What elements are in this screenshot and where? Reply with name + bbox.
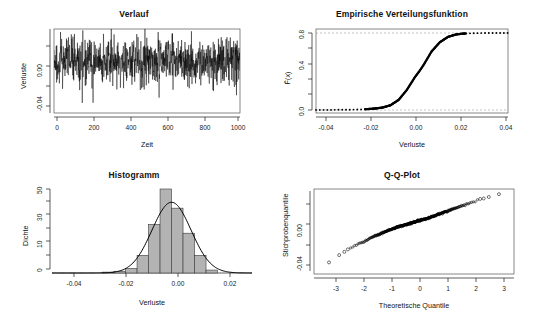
verlauf-series	[54, 29, 240, 103]
ecdf-point	[477, 32, 479, 34]
histogram-bar	[149, 224, 160, 273]
y-tick-label: 0.4	[298, 61, 305, 70]
y-tick-label: 50	[36, 186, 43, 194]
panel-ecdf: Empirische Verteilungsfunktion 0.0 0.4 0…	[268, 0, 536, 161]
x-tick-label: 0	[55, 124, 59, 131]
x-tick-label: -1	[389, 285, 395, 292]
x-tick-label: 2	[474, 285, 478, 292]
x-tick-label: 0.00	[172, 280, 185, 287]
ecdf-point	[326, 109, 328, 111]
qq-point	[346, 248, 349, 251]
x-axis-title: Theoretische Quantile	[379, 301, 449, 310]
ecdf-point	[473, 32, 475, 34]
panel-qq: Q-Q-Plot -0.04 0.00 Stichprobenquantile …	[268, 161, 536, 322]
x-axis-title: Verluste	[399, 140, 425, 149]
plot-box	[316, 29, 508, 113]
x-tick-label: 3	[502, 285, 506, 292]
ecdf-point	[338, 109, 340, 111]
y-tick-label: 0.00	[296, 224, 303, 237]
histogram-bar	[206, 270, 217, 273]
x-tick-label: 0.04	[500, 124, 513, 131]
x-tick-label: -2	[361, 285, 367, 292]
qq-series	[328, 193, 501, 264]
panel-qq-plot: -0.04 0.00 Stichprobenquantile -3 -2 -1 …	[268, 161, 536, 322]
y-tick-label: 30	[36, 213, 43, 221]
qq-point	[343, 250, 346, 253]
y-tick-label: 0.8	[298, 30, 305, 39]
x-tick-label: -0.02	[363, 124, 378, 131]
y-tick-label: 0.0	[298, 107, 305, 116]
ecdf-series	[315, 32, 508, 111]
histogram-bar	[172, 208, 183, 273]
qq-point	[479, 197, 482, 200]
y-tick-label: -0.04	[36, 96, 43, 111]
x-tick-label: 800	[199, 124, 210, 131]
x-tick-label: 1000	[231, 124, 246, 131]
ecdf-point	[465, 33, 467, 35]
ecdf-point	[499, 32, 501, 34]
ecdf-point	[484, 32, 486, 34]
panel-histogram: Histogramm 0 10 30 50 Dichte -0.04 -0.02…	[0, 161, 268, 322]
y-axis-ticks	[46, 46, 50, 106]
ecdf-point	[345, 109, 347, 111]
y-axis-ticks	[306, 204, 310, 265]
x-axis-title: Verluste	[139, 298, 165, 307]
plot-figure: Verlauf -0.04 0.00 Verluste 0 200 400 60…	[0, 0, 537, 322]
x-tick-label: 1	[446, 285, 450, 292]
y-tick-label: -0.04	[296, 256, 303, 271]
qq-point	[482, 197, 485, 200]
ecdf-point	[488, 32, 490, 34]
svg-text:F̂(x): F̂(x)	[283, 72, 292, 85]
x-axis-ticks	[74, 273, 230, 277]
ecdf-point	[330, 109, 332, 111]
x-axis-ticks	[336, 278, 504, 282]
ecdf-point	[353, 109, 355, 111]
x-axis-title: Zeit	[141, 140, 153, 149]
qq-point	[328, 261, 331, 264]
x-tick-label: 0.00	[410, 124, 423, 131]
x-tick-label: 400	[125, 124, 136, 131]
y-axis-title: F̂(x)	[283, 72, 292, 85]
ecdf-point	[319, 109, 321, 111]
x-tick-label: 0.02	[224, 280, 237, 287]
x-tick-label: 200	[88, 124, 99, 131]
ecdf-point	[492, 32, 494, 34]
panel-histogram-plot: 0 10 30 50 Dichte -0.04 -0.02 0.00 0.02 …	[0, 161, 268, 322]
ecdf-point	[469, 32, 471, 34]
qq-point	[349, 247, 351, 249]
x-tick-label: 0.02	[455, 124, 468, 131]
y-tick-label: 10	[36, 240, 43, 248]
x-tick-label: -0.02	[118, 280, 133, 287]
ecdf-point	[495, 32, 497, 34]
ecdf-point	[503, 32, 505, 34]
y-axis-title: Verluste	[19, 63, 28, 89]
ecdf-point	[315, 109, 317, 111]
histogram-bar	[183, 233, 194, 273]
qq-point	[352, 246, 354, 248]
x-tick-label: -3	[333, 285, 339, 292]
y-axis-title: Stichprobenquantile	[281, 193, 290, 257]
histogram-bar	[137, 255, 148, 273]
histogram-bar	[195, 255, 206, 273]
y-tick-label: 0	[36, 268, 43, 272]
x-tick-label: -0.04	[66, 280, 81, 287]
y-tick-label: 0.00	[36, 64, 43, 77]
y-axis-title: Dichte	[21, 226, 30, 246]
ecdf-point	[341, 109, 343, 111]
panel-verlauf-plot: -0.04 0.00 Verluste 0 200 400 600 800 10…	[0, 0, 268, 161]
plot-box	[314, 189, 514, 274]
histogram-bar	[160, 189, 171, 273]
qq-point	[497, 193, 500, 196]
ecdf-point	[356, 109, 358, 111]
histogram-bar	[126, 269, 137, 273]
x-axis-ticks	[326, 117, 506, 121]
histogram-bars	[103, 189, 218, 273]
ecdf-point	[323, 109, 325, 111]
panel-verlauf: Verlauf -0.04 0.00 Verluste 0 200 400 60…	[0, 0, 268, 161]
x-tick-label: 600	[162, 124, 173, 131]
y-axis-ticks	[308, 33, 312, 110]
ecdf-point	[480, 32, 482, 34]
ecdf-point	[360, 108, 362, 110]
x-tick-label: 0	[418, 285, 422, 292]
ecdf-point	[334, 109, 336, 111]
